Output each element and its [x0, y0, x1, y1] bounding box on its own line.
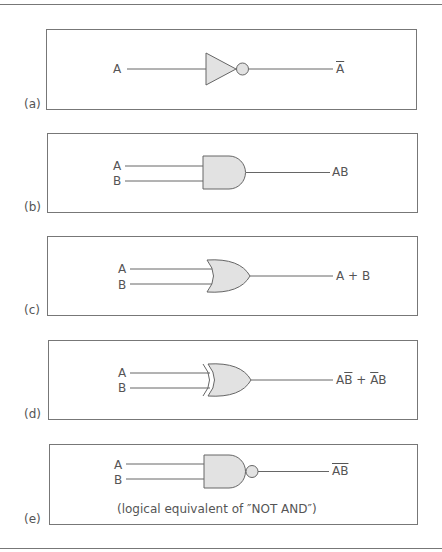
nand-gate-icon	[126, 455, 329, 488]
and-gate-icon	[125, 156, 330, 189]
or-gate-icon	[130, 260, 333, 292]
not-gate-icon	[127, 53, 333, 85]
gate-diagrams	[0, 0, 442, 552]
xor-gate-icon	[130, 364, 333, 396]
